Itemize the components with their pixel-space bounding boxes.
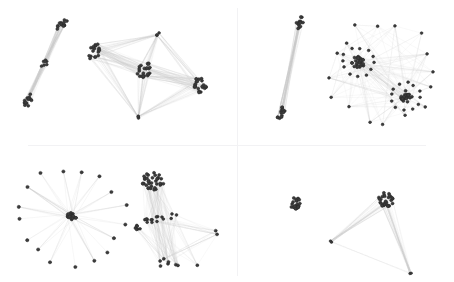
panel-divider-vertical	[237, 8, 238, 276]
figure-root	[0, 0, 454, 282]
graph-grid-canvas	[0, 0, 454, 282]
panel-divider-horizontal	[28, 145, 426, 146]
